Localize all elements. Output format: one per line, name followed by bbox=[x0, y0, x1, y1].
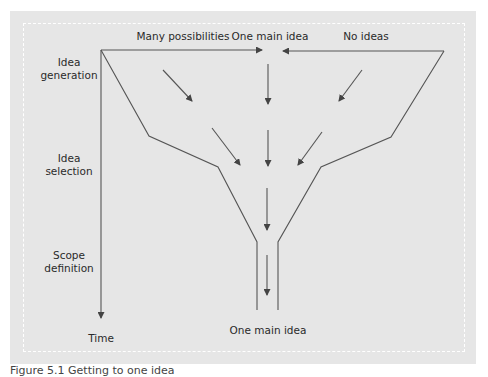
stage-scope-definition: Scope definition bbox=[34, 249, 104, 275]
stage-line2: definition bbox=[34, 262, 104, 275]
label-many-possibilities: Many possibilities bbox=[133, 30, 233, 43]
figure-caption: Figure 5.1 Getting to one idea bbox=[10, 364, 175, 377]
stage-line1: Idea bbox=[34, 56, 104, 69]
stage-idea-selection: Idea selection bbox=[34, 152, 104, 178]
stage-line2: selection bbox=[34, 165, 104, 178]
stage-line2: generation bbox=[34, 69, 104, 82]
label-one-main-idea-top: One main idea bbox=[228, 30, 312, 43]
label-one-main-idea-bottom: One main idea bbox=[222, 324, 314, 337]
label-no-ideas: No ideas bbox=[336, 30, 396, 43]
funnel-left-edge bbox=[101, 50, 257, 310]
stage-line1: Scope bbox=[34, 249, 104, 262]
stage-line1: Idea bbox=[34, 152, 104, 165]
funnel-right-edge bbox=[278, 51, 444, 310]
axis-label-time: Time bbox=[76, 332, 126, 345]
stage-idea-generation: Idea generation bbox=[34, 56, 104, 82]
